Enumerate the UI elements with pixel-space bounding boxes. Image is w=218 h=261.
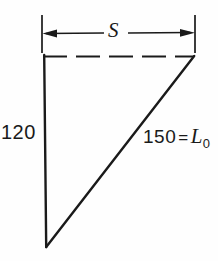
hypotenuse-subscript: 0 (203, 136, 211, 151)
span-dimension-label: S (108, 20, 119, 41)
hypotenuse-equals-sign: = (176, 128, 190, 147)
left-arrowhead-icon (43, 30, 58, 38)
vertical-side-label: 120 (1, 122, 36, 142)
figure-container: S 120 150=L0 (0, 0, 218, 261)
hypotenuse-symbol: L (191, 124, 203, 148)
triangle-hypotenuse-edge (46, 56, 194, 247)
hypotenuse-label: 150=L0 (143, 126, 211, 150)
hypotenuse-value: 150 (143, 126, 176, 147)
triangle-left-edge (44, 55, 46, 247)
right-arrowhead-icon (180, 29, 195, 37)
